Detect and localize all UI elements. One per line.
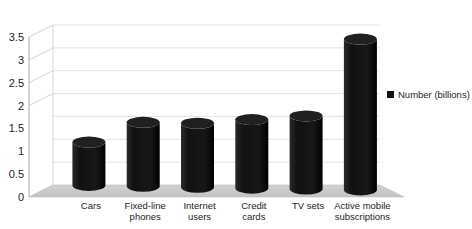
bar-top-cap (72, 137, 105, 148)
category-label: users (188, 211, 211, 222)
bar-body (290, 116, 323, 195)
category-label: Fixed-line (125, 200, 166, 211)
bar-body (181, 123, 214, 193)
bar-cylinder (127, 117, 160, 192)
bar-cylinder (235, 114, 268, 194)
bar-body (344, 39, 377, 195)
category-label: phones (130, 211, 161, 222)
y-tick-label: 2 (18, 100, 24, 112)
y-tick-label: 1.5 (9, 122, 24, 134)
bar-body (72, 142, 105, 191)
bar-cylinder (181, 118, 214, 193)
bar-cylinder (290, 110, 323, 194)
bar-cylinder (72, 137, 105, 191)
category-label: Internet (183, 200, 216, 211)
y-tick-label: 0.5 (9, 168, 24, 180)
category-label: Active mobile (334, 200, 391, 211)
category-label: TV sets (292, 200, 324, 211)
y-tick-label: 2.5 (9, 77, 24, 89)
category-label: Credit (241, 200, 267, 211)
category-label: subscriptions (335, 211, 391, 222)
category-label: Cars (81, 200, 101, 211)
y-tick-label: 1 (18, 145, 24, 157)
bar-top-cap (127, 117, 160, 128)
legend-marker-square (387, 91, 394, 98)
bar-cylinder (344, 34, 377, 196)
legend-entry-label: Number (billions) (398, 89, 470, 100)
bar-top-cap (290, 110, 323, 121)
category-label: cards (242, 211, 265, 222)
bar-top-cap (181, 118, 214, 129)
chart-container: 3.5 3 2.5 2 1.5 1 0.5 0 CarsFixed-lineph… (0, 0, 472, 229)
legend: Number (billions) (387, 89, 470, 100)
bar-top-cap (235, 114, 268, 125)
bar-top-cap (344, 34, 377, 45)
bar-body (127, 122, 160, 192)
y-tick-label: 0 (18, 191, 24, 203)
bar-body (235, 120, 268, 194)
y-tick-label: 3 (18, 54, 24, 66)
bar-chart-3d: 3.5 3 2.5 2 1.5 1 0.5 0 CarsFixed-lineph… (0, 0, 472, 229)
y-tick-label: 3.5 (9, 31, 24, 43)
